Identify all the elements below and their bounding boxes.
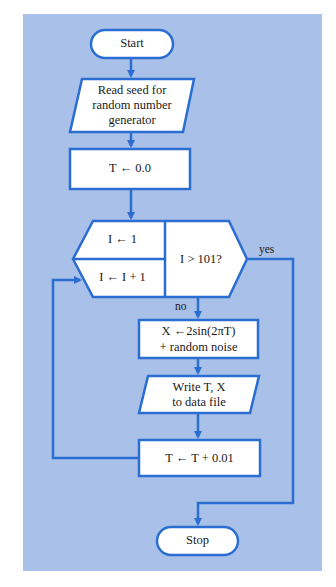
init-t-label: T ← 0.0 (70, 161, 190, 176)
connector-loop-back (53, 280, 139, 458)
yes-label: yes (259, 243, 274, 255)
no-label: no (175, 300, 187, 312)
read-seed-line2: random number (76, 98, 188, 113)
read-seed-line1: Read seed for (76, 83, 188, 98)
read-seed-line3: generator (76, 113, 188, 128)
incr-t-label: T ← T + 0.01 (139, 451, 260, 466)
loop-init-label: I ← 1 (80, 232, 165, 247)
compute-x-line2: + random noise (139, 340, 258, 355)
stop-label: Stop (157, 533, 238, 548)
write-line2: to data file (144, 395, 254, 410)
start-label: Start (91, 36, 173, 51)
compute-x-line1: X ←2sin(2πT) (139, 324, 258, 339)
loop-test-label: I > 101? (165, 252, 237, 267)
write-line1: Write T, X (144, 380, 254, 395)
loop-incr-label: I ← I + 1 (80, 270, 165, 285)
